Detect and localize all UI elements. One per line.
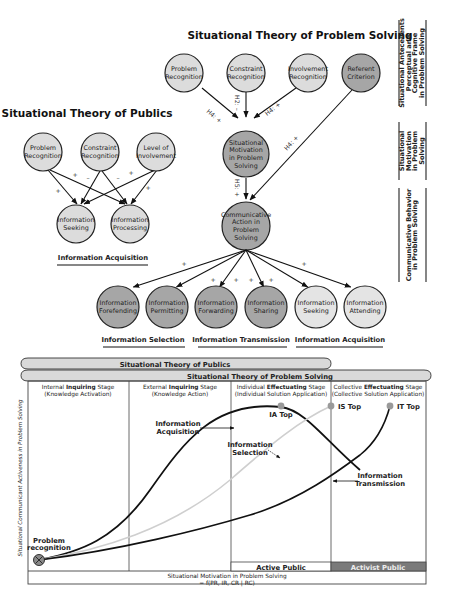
stp-edge-sign: + [55, 187, 60, 194]
behavior-edge [133, 250, 246, 287]
edge-cr-is [81, 171, 100, 204]
behavior-edge-signs: ++++++ [181, 260, 306, 283]
stp-nodes: ProblemRecognitionConstraintRecognitionL… [24, 133, 176, 243]
stp-node-cr-label: Recognition [81, 152, 119, 160]
peak-label: IS Top [338, 403, 361, 411]
stp-node-li: Level ofInvolvement [136, 133, 176, 171]
peak-label: IT Top [397, 403, 420, 411]
behavior-node-3: InformationSharing [245, 286, 287, 328]
edge-label-cr-sm: H2: – [234, 95, 241, 111]
it-label-line1: Information [357, 472, 402, 480]
peak-dot-icon [278, 403, 285, 410]
stp-title: Situational Theory of Publics [2, 107, 173, 119]
peak-dot-icon [328, 403, 335, 410]
stp-node-ip-label: Processing [113, 224, 147, 232]
problem-recognition-origin: Problem recognition [27, 537, 71, 566]
behavior-node-5-label: Attending [349, 307, 380, 315]
peak-dot-icon [387, 403, 394, 410]
peaks: IA TopIS TopIT Top [269, 403, 420, 420]
ia-label-line2: Acquisition [157, 428, 200, 436]
behavior-edge-sign: + [268, 276, 273, 283]
stps-node-ir2-label: Recognition [289, 73, 327, 81]
behavior-node-1-label: Permitting [151, 307, 184, 315]
stp-node-pr: ProblemRecognition [24, 133, 62, 171]
curve-annotations: Information Acquisition Information Sele… [155, 420, 405, 488]
stps-node-sm: SituationalMotivationin ProblemSolving [223, 131, 269, 177]
side-label: Solving [418, 137, 426, 165]
theory-bars: Situational Theory of Publics Situationa… [21, 358, 431, 381]
stps-figure: Situational Theory of Problem Solving H4… [0, 0, 456, 605]
stp-node-cr: ConstraintRecognition [81, 133, 119, 171]
behavior-edge-sign: + [181, 260, 186, 267]
behavior-node-3-label: Sharing [254, 307, 279, 315]
stp-edge-sign: – [116, 174, 119, 181]
stps-node-rc: ReferentCriterion [342, 54, 380, 92]
behavior-node-5: InformationAttending [344, 286, 386, 328]
stp-edge-sign: + [145, 184, 150, 191]
behavior-node-4-label: Seeking [303, 307, 329, 315]
stage-header-title: Internal Inquiring Stage [42, 384, 115, 391]
stage-header-sub: (Knowledge Activation) [44, 391, 111, 398]
behavior-groups: Information SelectionInformation Transmi… [101, 336, 385, 347]
edge-label-sm-ca: H5: + [234, 179, 241, 197]
x-axis-label-line1: Situational Motivation in Problem Solvin… [167, 573, 286, 580]
behavior-group-label: Information Selection [101, 336, 184, 344]
is-label-line1: Information [227, 441, 272, 449]
x-axis-label-line2: = f(PR, IR, CR | RC) [199, 580, 254, 587]
peak-label: IA Top [269, 411, 293, 419]
stage-header-sub: (Collective Solution Application) [332, 391, 425, 398]
curve-information-acquisition [39, 406, 360, 560]
side-labels: Situational AntecedentsPerceptual andCog… [398, 18, 426, 282]
stp-node-ip: InformationProcessing [111, 205, 149, 243]
curves [39, 406, 390, 560]
ia-label-line1: Information [155, 420, 200, 428]
behavior-node-2-label: Forwarding [198, 307, 234, 315]
stps-node-ca: CommunicativeAction inProblemSolving [221, 202, 271, 250]
bar-publics-label: Situational Theory of Publics [120, 361, 231, 369]
behavior-node-4: InformationSeeking [295, 286, 337, 328]
stp-node-pr-label: Recognition [24, 152, 62, 160]
behavior-group-label: Information Transmission [192, 336, 290, 344]
stps-node-ca-label: Solving [234, 234, 257, 242]
stps-node-pr2-label: Recognition [165, 73, 203, 81]
stps-node-pr2: ProblemRecognition [165, 54, 203, 92]
stp-node-li-label: Involvement [136, 152, 176, 160]
behavior-edge-sign: + [233, 276, 238, 283]
stps-nodes: ProblemRecognitionConstraintRecognitionI… [165, 54, 380, 250]
stp-edge-sign: – [86, 174, 89, 181]
side-label: in Problem Solving [411, 200, 419, 270]
behavior-edge-sign: + [248, 276, 253, 283]
activist-public-label: Activist Public [351, 564, 406, 572]
curve-information-transmission [39, 406, 390, 560]
edge-label-ir-sm: H4: + [263, 100, 281, 116]
stps-node-rc-label: Criterion [347, 73, 375, 81]
bar-problem-solving-label: Situational Theory of Problem Solving [187, 373, 333, 381]
stage-header-title: External Inquiring Stage [143, 384, 218, 391]
active-public-label: Active Public [256, 564, 306, 572]
stp-node-is-label: Seeking [63, 224, 89, 232]
stp-edges [48, 170, 157, 204]
stps-node-cr2: ConstraintRecognition [227, 54, 265, 92]
stage-header-title: Individual Effectuating Stage [237, 384, 326, 391]
stage-header-sub: (Individual Solution Application) [235, 391, 327, 398]
stps-node-ir2: InvolvementRecognition [288, 54, 328, 92]
stps-node-cr2-label: Recognition [227, 73, 265, 81]
behavior-node-1: InformationPermitting [146, 286, 188, 328]
is-label-line2: Selection [232, 449, 268, 457]
side-label: in Problem Solving [418, 28, 426, 98]
behavior-node-2: InformationForwarding [195, 286, 237, 328]
behavior-group-label: Information Acquisition [295, 336, 385, 344]
y-axis-label: Situational Communicant Activeness in Pr… [17, 399, 24, 556]
stp-node-is: InformationSeeking [57, 205, 95, 243]
stage-header-sub: (Knowledge Action) [152, 391, 208, 398]
behavior-edge-sign: + [301, 260, 306, 267]
origin-label-line2: recognition [27, 544, 71, 552]
behavior-edges [133, 250, 350, 287]
is-pointer [268, 450, 280, 458]
stage-header-title: Collective Effectuating Stage [334, 384, 423, 391]
behavior-edge-sign: + [210, 276, 215, 283]
stps-title: Situational Theory of Problem Solving [187, 29, 412, 41]
it-label-line2: Transmission [355, 480, 405, 488]
stp-group-label: Information Acquisition [58, 254, 148, 262]
stps-node-sm-label: Solving [234, 162, 257, 170]
